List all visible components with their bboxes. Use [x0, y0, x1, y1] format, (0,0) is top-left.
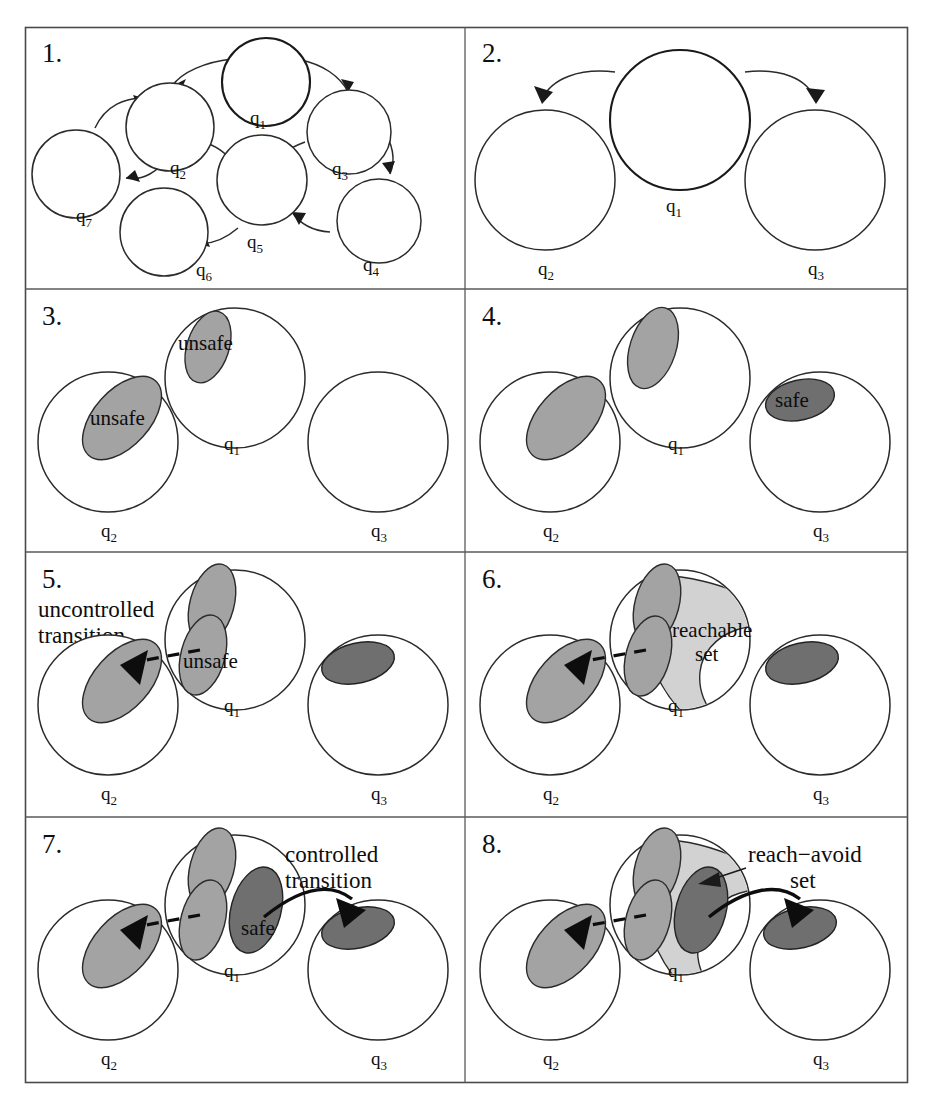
safe-label4-q3: safe: [775, 388, 809, 412]
unsafe-label-q2: unsafe: [90, 406, 145, 430]
panel-3-number: 3.: [42, 301, 62, 331]
state-circle-q4[interactable]: [337, 179, 421, 263]
uncontrolled-callout-line1: uncontrolled: [38, 597, 155, 622]
controlled-callout-line2: transition: [285, 868, 372, 893]
reachable-label-line1: reachable: [672, 618, 752, 642]
panel-8-number: 8.: [482, 829, 502, 859]
controlled-callout-line1: controlled: [285, 842, 379, 867]
panel-7-number: 7.: [42, 829, 62, 859]
state-circle3-q1[interactable]: [165, 308, 305, 448]
unsafe-label-q1: unsafe: [178, 331, 233, 355]
state-circle-q1[interactable]: [222, 38, 310, 126]
reachable-label-line2: set: [695, 642, 718, 666]
figure-root: 1.: [0, 0, 926, 1105]
state-circle-q3[interactable]: [307, 90, 391, 174]
safe-label7-q1: safe: [241, 916, 275, 940]
reach-avoid-callout-line1: reach−avoid: [748, 842, 862, 867]
state-circle-q5[interactable]: [217, 135, 307, 225]
state-circle2-q1[interactable]: [610, 50, 750, 190]
reach-avoid-callout-line2: set: [790, 868, 816, 893]
state-circle2-q2[interactable]: [475, 110, 615, 250]
panel-1-number: 1.: [42, 38, 62, 68]
panel-5-number: 5.: [42, 564, 62, 594]
figure-canvas: 1.: [0, 0, 926, 1105]
state-circle2-q3[interactable]: [745, 110, 885, 250]
panel-6-number: 6.: [482, 564, 502, 594]
state-circle-q6[interactable]: [120, 188, 208, 276]
panel-4-number: 4.: [482, 301, 502, 331]
panel-2-number: 2.: [482, 38, 502, 68]
unsafe-label5-q1: unsafe: [183, 649, 238, 673]
state-circle3-q3[interactable]: [308, 372, 448, 512]
